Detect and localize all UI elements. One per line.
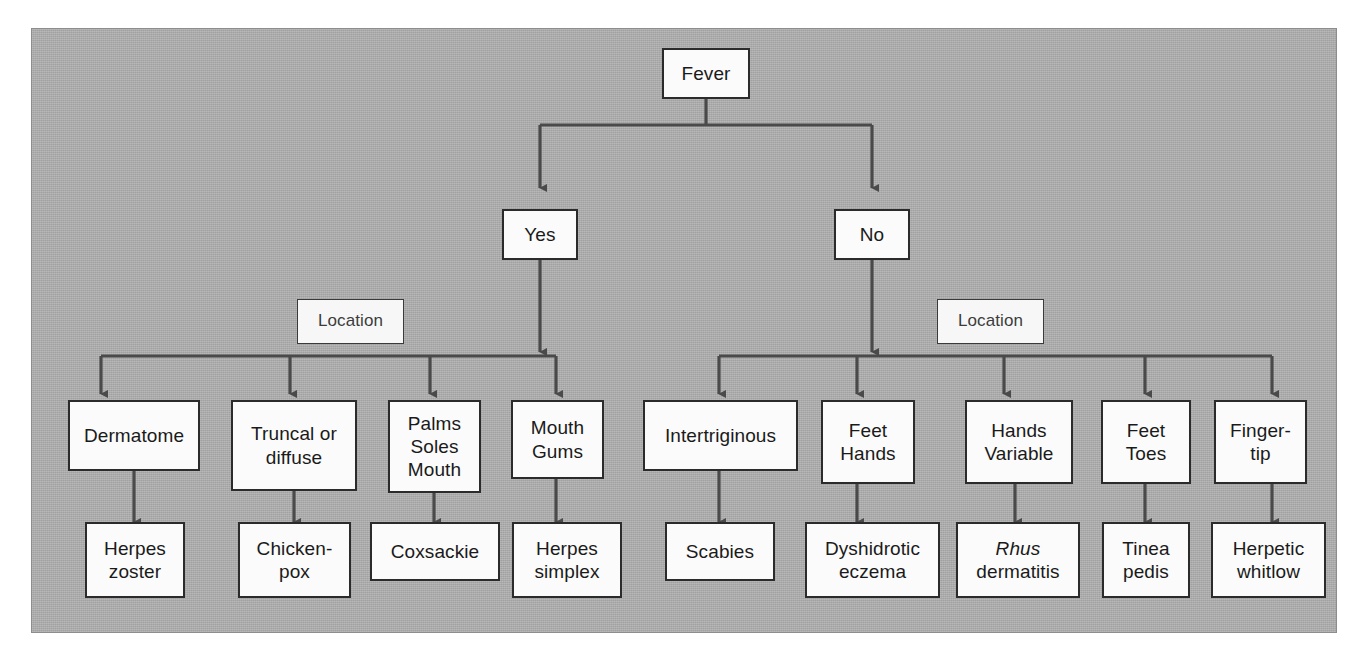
node-chickenpox[interactable]: Chicken- pox <box>238 522 351 598</box>
node-feet-hands[interactable]: Feet Hands <box>821 400 915 484</box>
node-tinea-pedis[interactable]: Tinea pedis <box>1102 522 1190 598</box>
node-intertriginous[interactable]: Intertriginous <box>643 400 798 471</box>
node-palms-soles-mouth[interactable]: Palms Soles Mouth <box>388 400 481 493</box>
node-rhus-dermatitis[interactable]: Rhusdermatitis <box>956 522 1080 598</box>
node-feet-toes[interactable]: Feet Toes <box>1101 400 1191 484</box>
node-truncal-or-diffuse[interactable]: Truncal or diffuse <box>231 400 357 491</box>
rhus-dermatitis-rest: dermatitis <box>976 561 1059 582</box>
node-rhus-dermatitis-label: Rhusdermatitis <box>976 537 1059 583</box>
node-herpes-simplex[interactable]: Herpes simplex <box>512 522 622 598</box>
node-mouth-gums[interactable]: Mouth Gums <box>511 400 604 479</box>
node-branch-yes[interactable]: Yes <box>502 209 578 260</box>
node-hands-variable[interactable]: Hands Variable <box>965 400 1073 484</box>
node-dermatome[interactable]: Dermatome <box>68 400 200 471</box>
node-fingertip[interactable]: Finger- tip <box>1214 400 1307 484</box>
node-herpes-zoster[interactable]: Herpes zoster <box>85 522 185 598</box>
node-location-right: Location <box>937 299 1044 344</box>
rhus-genus-italic: Rhus <box>996 538 1041 559</box>
node-dyshidrotic-eczema[interactable]: Dyshidrotic eczema <box>805 522 940 598</box>
node-location-left: Location <box>297 299 404 344</box>
node-fever[interactable]: Fever <box>662 48 750 99</box>
node-herpetic-whitlow[interactable]: Herpetic whitlow <box>1211 522 1326 598</box>
node-scabies[interactable]: Scabies <box>665 522 775 581</box>
node-coxsackie[interactable]: Coxsackie <box>370 522 500 581</box>
decision-tree-figure: Fever Yes No Location Location Dermatome… <box>0 0 1369 663</box>
node-branch-no[interactable]: No <box>834 209 910 260</box>
